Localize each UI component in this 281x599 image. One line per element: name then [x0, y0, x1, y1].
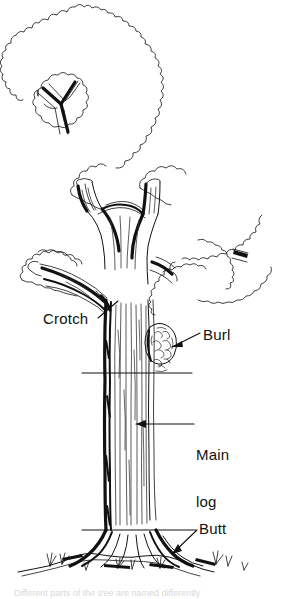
foliage-left-lobe [0, 35, 23, 100]
foliage-upper-left [70, 164, 106, 209]
label-crotch: Crotch [43, 311, 88, 327]
figure-caption: Different parts of the tree are named di… [14, 588, 272, 598]
label-burl: Burl [203, 327, 230, 343]
inset-branch-detail [33, 73, 89, 135]
foliage-mid-cluster [163, 239, 248, 289]
leader-main-log [136, 420, 194, 428]
tree-parts-figure: .ln { fill:none; stroke:#111; stroke-wid… [0, 0, 281, 599]
label-main-log-line2: log [196, 494, 229, 510]
upper-branch-stubs [77, 179, 161, 215]
leader-butt [172, 530, 197, 554]
foliage-right-lobe [149, 215, 272, 315]
left-main-limb [28, 261, 110, 314]
label-main-log-line1: Main [196, 447, 229, 463]
foliage-canopy [16, 5, 164, 169]
label-butt: Butt [199, 521, 226, 537]
tree-illustration: .ln { fill:none; stroke:#111; stroke-wid… [0, 0, 281, 599]
